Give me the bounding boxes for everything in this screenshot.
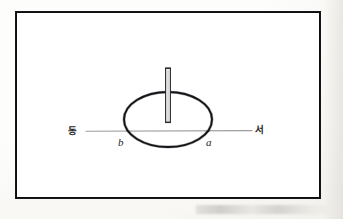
direction-label-east: 동 bbox=[68, 126, 77, 136]
figure-page: 동 서 b a bbox=[0, 0, 343, 219]
point-label-b: b bbox=[118, 137, 124, 148]
diagram-svg bbox=[0, 0, 343, 219]
point-label-a: a bbox=[206, 137, 212, 148]
east-west-axis bbox=[86, 131, 252, 132]
direction-label-west: 서 bbox=[255, 125, 264, 135]
